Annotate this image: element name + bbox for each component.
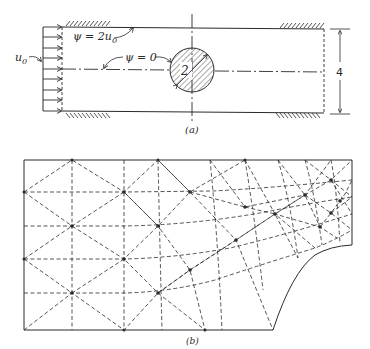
mesh-vertical-lines [72, 160, 340, 330]
mesh-horizontal-lines [24, 180, 352, 293]
cylinder-diameter-label: 2 [180, 64, 189, 78]
centerline-label-leader-left [104, 57, 123, 68]
top-wall-hatch-left [66, 21, 110, 26]
inlet-velocity-profile [43, 27, 61, 111]
bottom-wall-hatch-right [276, 113, 320, 118]
bottom-wall-hatch-left [66, 113, 110, 118]
bottom-wall [62, 111, 324, 113]
figure-a-channel: 2 4 u0 ψ = 2u0 ψ = 0 (a) [15, 14, 350, 135]
centerline-psi-label: ψ = 0 [125, 51, 157, 64]
channel-height-label: 4 [336, 66, 343, 79]
centerline-label-leader-right [155, 57, 171, 62]
centerline-left [62, 69, 170, 70]
top-wall-hatch-right [280, 23, 324, 28]
inlet-label-leader [29, 57, 41, 62]
caption-a: (a) [185, 124, 199, 135]
top-wall-psi-label: ψ = 2u0 [73, 30, 117, 45]
mesh-boundary [24, 160, 352, 330]
inlet-velocity-label: u0 [15, 51, 27, 66]
centerline-right [215, 71, 324, 72]
figure-canvas: 2 4 u0 ψ = 2u0 ψ = 0 (a) [0, 0, 370, 349]
mesh-diagonal-lines [24, 160, 352, 330]
caption-b: (b) [186, 336, 199, 346]
figure-b-mesh: (b) [23, 159, 353, 347]
